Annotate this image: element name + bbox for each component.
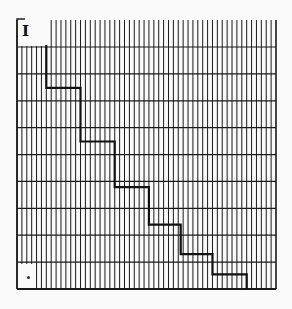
panel-label: I — [22, 24, 29, 39]
step-chart — [0, 0, 292, 309]
corner-dot-marker — [27, 276, 30, 279]
step-series-line — [46, 45, 246, 289]
